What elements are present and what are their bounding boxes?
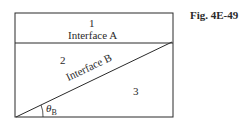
angle-theta-b-label: θB [46, 102, 57, 117]
angle-arc [41, 105, 43, 117]
region-1-label: 1 [89, 18, 95, 29]
interface-b-line [16, 42, 172, 117]
region-2-label: 2 [60, 55, 66, 66]
theta-subscript: B [51, 108, 56, 117]
region-3-label: 3 [133, 86, 139, 97]
interface-a-label: Interface A [68, 30, 117, 41]
figure-label: Fig. 4E-49 [190, 9, 238, 21]
